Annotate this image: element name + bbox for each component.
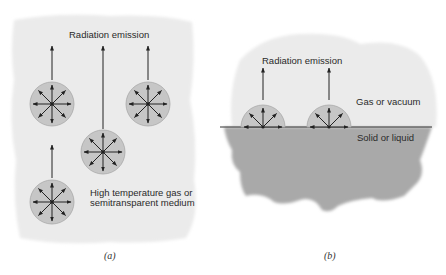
panel-a-caption: (a) <box>104 250 116 261</box>
volumetric-emitter <box>30 82 74 126</box>
panel-a-medium-label-line2: semitransparent medium <box>90 197 195 208</box>
gas-vacuum-label: Gas or vacuum <box>356 96 420 107</box>
solid-liquid-label: Solid or liquid <box>357 132 414 143</box>
volumetric-emitter <box>30 180 74 224</box>
volumetric-emitter <box>81 130 125 174</box>
panel-a-title: Radiation emission <box>69 29 149 40</box>
panel-b-title: Radiation emission <box>262 55 342 66</box>
panel-b-caption: (b) <box>324 250 336 261</box>
volumetric-emitter <box>126 82 170 126</box>
